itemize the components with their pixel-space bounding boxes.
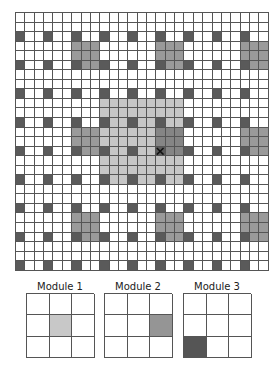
- grid-cell: [175, 99, 184, 109]
- grid-cell: [156, 156, 165, 166]
- grid-cell: [213, 233, 222, 243]
- grid-cell: [147, 213, 156, 223]
- grid-cell: [175, 108, 184, 118]
- grid-cell: [231, 99, 240, 109]
- grid-cell: [259, 137, 268, 147]
- grid-cell: [91, 194, 100, 204]
- grid-cell: [259, 175, 268, 185]
- grid-cell: [222, 194, 231, 204]
- grid-cell: [138, 108, 147, 118]
- grid-cell: [259, 185, 268, 195]
- grid-cell: [138, 242, 147, 252]
- grid-cell: [16, 80, 25, 90]
- grid-cell: [63, 261, 72, 271]
- grid-cell: [25, 80, 34, 90]
- grid-cell: [16, 32, 25, 42]
- grid-cell: [128, 61, 137, 71]
- grid-cell: [63, 32, 72, 42]
- grid-cell: [241, 147, 250, 157]
- module-cell: [105, 337, 128, 358]
- grid-cell: [72, 261, 81, 271]
- grid-cell: [138, 118, 147, 128]
- grid-cell: [147, 147, 156, 157]
- grid-cell: [175, 51, 184, 61]
- grid-cell: [53, 99, 62, 109]
- grid-cell: [128, 118, 137, 128]
- grid-cell: [231, 118, 240, 128]
- grid-cell: [72, 166, 81, 176]
- grid-cell: [213, 194, 222, 204]
- grid-cell: [53, 13, 62, 23]
- grid-cell: [203, 185, 212, 195]
- grid-cell: [213, 185, 222, 195]
- grid-cell: [91, 175, 100, 185]
- grid-cell: [72, 175, 81, 185]
- grid-cell: [194, 194, 203, 204]
- grid-cell: [100, 156, 109, 166]
- grid-cell: [213, 261, 222, 271]
- grid-cell: [250, 70, 259, 80]
- grid-cell: [231, 32, 240, 42]
- grid-cell: [203, 204, 212, 214]
- grid-cell: [35, 61, 44, 71]
- grid-cell: [194, 89, 203, 99]
- grid-cell: [241, 166, 250, 176]
- grid-cell: [250, 32, 259, 42]
- grid-cell: [63, 147, 72, 157]
- grid-cell: [44, 175, 53, 185]
- grid-cell: [222, 166, 231, 176]
- grid-cell: [128, 185, 137, 195]
- grid-cell: [35, 70, 44, 80]
- grid-cell: [166, 51, 175, 61]
- grid-cell: [110, 32, 119, 42]
- grid-cell: [35, 32, 44, 42]
- grid-cell: [166, 118, 175, 128]
- grid-cell: [184, 70, 193, 80]
- grid-cell: [72, 137, 81, 147]
- grid-cell: [156, 147, 165, 157]
- grid-cell: [44, 137, 53, 147]
- grid-cell: [44, 213, 53, 223]
- grid-cell: [119, 223, 128, 233]
- grid-cell: [203, 80, 212, 90]
- grid-cell: [91, 233, 100, 243]
- grid-cell: [194, 108, 203, 118]
- grid-cell: [25, 213, 34, 223]
- grid-cell: [241, 108, 250, 118]
- grid-cell: [128, 213, 137, 223]
- grid-cell: [110, 204, 119, 214]
- grid-cell: [82, 99, 91, 109]
- grid-cell: [100, 61, 109, 71]
- grid-cell: [147, 166, 156, 176]
- module-cell: [50, 337, 73, 358]
- grid-cell: [213, 23, 222, 33]
- grid-cell: [222, 185, 231, 195]
- grid-cell: [231, 137, 240, 147]
- grid-cell: [156, 242, 165, 252]
- grid-cell: [16, 70, 25, 80]
- grid-cell: [241, 32, 250, 42]
- grid-cell: [72, 204, 81, 214]
- grid-cell: [184, 223, 193, 233]
- grid-cell: [100, 42, 109, 52]
- grid-cell: [100, 13, 109, 23]
- grid-cell: [72, 233, 81, 243]
- grid-cell: [138, 233, 147, 243]
- grid-cell: [147, 32, 156, 42]
- grid-cell: [166, 108, 175, 118]
- grid-cell: [91, 147, 100, 157]
- grid-cell: [203, 242, 212, 252]
- grid-cell: [203, 137, 212, 147]
- grid-cell: [175, 42, 184, 52]
- grid-cell: [241, 194, 250, 204]
- grid-cell: [241, 233, 250, 243]
- grid-cell: [128, 108, 137, 118]
- grid-cell: [16, 99, 25, 109]
- grid-cell: [259, 70, 268, 80]
- grid-cell: [194, 51, 203, 61]
- grid-cell: [25, 175, 34, 185]
- grid-cell: [63, 233, 72, 243]
- module-cell: [128, 337, 151, 358]
- grid-cell: [231, 108, 240, 118]
- grid-cell: [119, 194, 128, 204]
